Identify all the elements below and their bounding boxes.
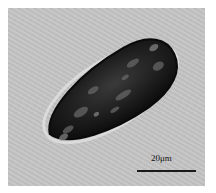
cell-body-shape [34, 36, 184, 146]
scale-bar [137, 170, 196, 172]
scale-bar-label: 20μm [151, 153, 172, 163]
cell-specimen [34, 36, 184, 146]
micrograph-field: 20μm [8, 8, 205, 186]
